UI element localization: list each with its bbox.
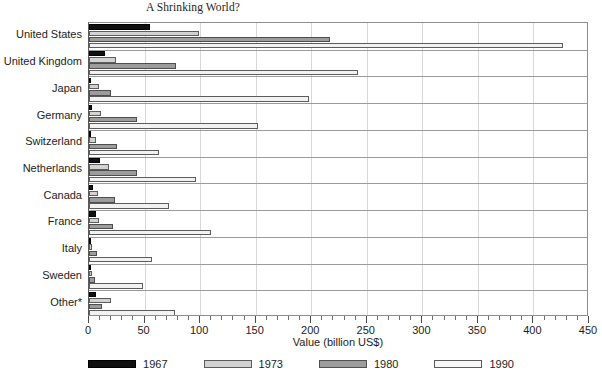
x-tick-major [421,316,422,323]
x-tick-minor [344,316,345,320]
x-tick-major [366,316,367,323]
legend-label: 1973 [259,358,283,370]
x-tick-minor [244,316,245,320]
x-tick-major [310,316,311,323]
x-tick-minor [155,316,156,320]
legend-swatch-1967 [88,360,136,368]
x-tick-minor [444,316,445,320]
x-tick-minor [499,316,500,320]
x-tick-minor [221,316,222,320]
x-tick-minor [188,316,189,320]
x-tick-minor [332,316,333,320]
x-tick-major [532,316,533,323]
x-tick-minor [488,316,489,320]
x-tick-minor [166,316,167,320]
x-tick-label: 450 [568,324,602,336]
x-tick-label: 150 [235,324,275,336]
y-axis-label: Netherlands [0,162,82,174]
x-tick-minor [132,316,133,320]
x-tick-minor [510,316,511,320]
chart-legend: 1967197319801990 [0,356,602,372]
x-tick-major [199,316,200,323]
x-tick-minor [277,316,278,320]
legend-entry: 1967 [88,358,167,370]
y-axis-label: Canada [0,189,82,201]
x-tick-minor [321,316,322,320]
x-tick-minor [566,316,567,320]
x-tick-major [88,316,89,323]
x-tick-minor [388,316,389,320]
x-tick-label: 100 [179,324,219,336]
x-tick-minor [266,316,267,320]
x-tick-minor [399,316,400,320]
x-tick-major [255,316,256,323]
x-tick-minor [521,316,522,320]
y-axis-label: Switzerland [0,135,82,147]
x-tick-minor [577,316,578,320]
x-tick-minor [466,316,467,320]
x-tick-label: 250 [346,324,386,336]
x-tick-minor [299,316,300,320]
legend-swatch-1980 [319,360,367,368]
x-tick-minor [544,316,545,320]
legend-label: 1980 [374,358,398,370]
x-tick-label: 50 [124,324,164,336]
y-axis-label: United States [0,28,82,40]
legend-entry: 1990 [434,358,513,370]
x-tick-label: 300 [401,324,441,336]
y-axis-label: Sweden [0,269,82,281]
x-tick-label: 0 [68,324,108,336]
y-axis-label: Other* [0,296,82,308]
y-axis-label: United Kingdom [0,55,82,67]
x-tick-minor [110,316,111,320]
x-tick-minor [355,316,356,320]
x-tick-major [588,316,589,323]
y-axis-label: Germany [0,109,82,121]
legend-label: 1967 [143,358,167,370]
x-tick-minor [99,316,100,320]
y-axis-label-group: United StatesUnited KingdomJapanGermanyS… [0,22,602,316]
x-axis-title: Value (billion US$) [88,336,588,348]
x-tick-minor [410,316,411,320]
x-axis: 050100150200250300350400450 [88,316,588,326]
legend-entry: 1973 [204,358,283,370]
x-tick-label: 350 [457,324,497,336]
x-tick-minor [210,316,211,320]
x-tick-major [144,316,145,323]
chart-title: A Shrinking World? [0,1,386,13]
y-axis-label: France [0,215,82,227]
x-tick-label: 200 [290,324,330,336]
y-axis-label: Japan [0,82,82,94]
x-tick-label: 400 [512,324,552,336]
y-axis-label: Italy [0,242,82,254]
x-tick-minor [121,316,122,320]
legend-swatch-1973 [204,360,252,368]
legend-swatch-1990 [434,360,482,368]
x-tick-minor [455,316,456,320]
x-tick-minor [232,316,233,320]
x-tick-minor [377,316,378,320]
legend-label: 1990 [489,358,513,370]
legend-entry: 1980 [319,358,398,370]
x-tick-minor [177,316,178,320]
x-tick-minor [288,316,289,320]
chart-figure: A Shrinking World? United StatesUnited K… [0,0,602,377]
x-tick-minor [432,316,433,320]
x-tick-minor [555,316,556,320]
x-tick-major [477,316,478,323]
